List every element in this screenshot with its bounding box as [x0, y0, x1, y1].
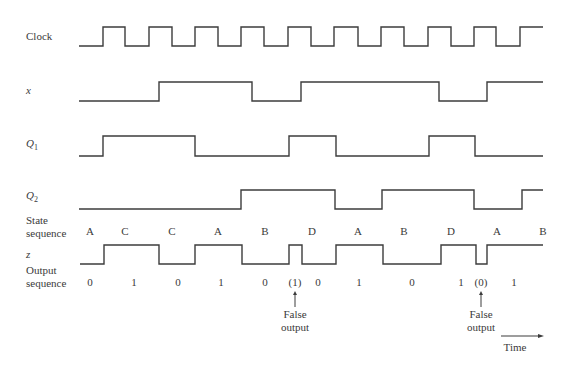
state-letter: D: [447, 225, 455, 237]
output-value: (0): [475, 276, 488, 288]
state-sequence-label-line2: sequence: [26, 227, 66, 240]
output-value: 0: [262, 276, 268, 288]
state-letter: A: [86, 225, 94, 237]
output-sequence-label-line1: Output: [26, 264, 66, 277]
output-value: (1): [289, 276, 302, 288]
state-letter: B: [400, 225, 407, 237]
output-value: 0: [409, 276, 415, 288]
output-sequence-label: Output sequence: [26, 264, 66, 290]
arrow-right-icon: [538, 334, 544, 338]
x-waveform: [79, 82, 543, 101]
state-letter: D: [308, 225, 316, 237]
state-letter: B: [539, 225, 546, 237]
time-axis-label: Time: [504, 341, 527, 354]
state-letter: A: [493, 225, 501, 237]
state-sequence-label-line1: State: [26, 214, 66, 227]
q1-label-main: Q: [26, 137, 34, 149]
q2-label: Q2: [26, 189, 38, 203]
q1-label-sub: 1: [34, 143, 38, 152]
q2-label-sub: 2: [34, 195, 38, 204]
q1-label: Q1: [26, 137, 38, 151]
arrow-up-icon: [479, 291, 483, 295]
state-letter: A: [214, 225, 222, 237]
arrow-up-icon: [293, 291, 297, 295]
false-output-note-line1: False: [467, 308, 495, 321]
z-label: z: [26, 248, 30, 261]
output-value: 0: [175, 276, 181, 288]
q2-label-main: Q: [26, 189, 34, 201]
state-letter: C: [168, 225, 175, 237]
false-output-note-line2: output: [281, 321, 309, 334]
output-value: 1: [458, 276, 464, 288]
output-value: 1: [356, 276, 362, 288]
q1-waveform: [79, 136, 543, 156]
output-value: 1: [218, 276, 224, 288]
false-output-note: Falseoutput: [281, 308, 309, 334]
state-letter: C: [121, 225, 128, 237]
state-letter: B: [261, 225, 268, 237]
state-letter: A: [354, 225, 362, 237]
output-value: 0: [315, 276, 321, 288]
false-output-note-line2: output: [467, 321, 495, 334]
z-waveform: [80, 245, 543, 264]
output-value: 0: [87, 276, 93, 288]
false-output-note-line1: False: [281, 308, 309, 321]
output-value: 1: [511, 276, 517, 288]
output-sequence-label-line2: sequence: [26, 277, 66, 290]
clock-waveform: [79, 27, 543, 46]
x-label: x: [26, 84, 31, 97]
false-output-note: Falseoutput: [467, 308, 495, 334]
state-sequence-label: State sequence: [26, 214, 66, 240]
clock-label: Clock: [26, 30, 52, 43]
output-value: 1: [131, 276, 137, 288]
q2-waveform: [79, 190, 543, 209]
